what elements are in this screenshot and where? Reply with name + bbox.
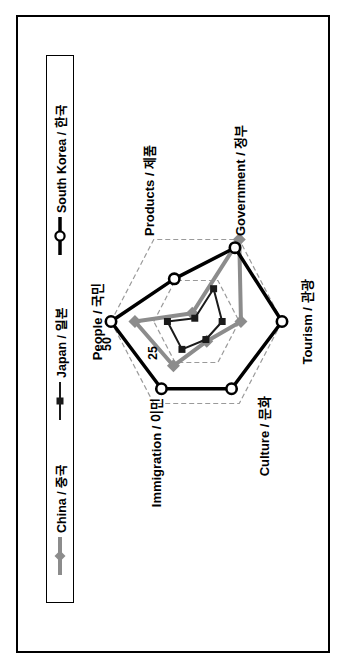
point-south_korea-0 [106,316,116,326]
axis-label-tourism: Tourism / 관광 [297,272,316,372]
point-japan-4 [202,336,209,343]
axis-label-culture: Culture / 문화 [254,396,273,476]
axis-label-products: Products / 제품 [139,145,158,236]
point-japan-3 [219,318,226,325]
point-south_korea-2 [230,242,240,252]
point-south_korea-3 [277,316,287,326]
point-south_korea-5 [156,384,166,394]
screenshot-root: China / 중국 Japan / 일본 South Korea / 한국 P… [0,0,343,669]
point-japan-0 [164,318,171,325]
point-japan-5 [178,346,185,353]
tick-label-50: 50 [100,337,114,351]
point-japan-2 [210,285,217,292]
radar-plot [0,0,343,669]
point-south_korea-4 [226,384,236,394]
axis-label-people: People / 국민 [87,274,106,369]
figure-canvas: China / 중국 Japan / 일본 South Korea / 한국 P… [0,0,343,669]
axis-label-immigration: Immigration / 이민 [146,398,165,507]
tick-label-25: 25 [146,346,160,360]
point-south_korea-1 [169,274,179,284]
point-japan-1 [191,315,198,322]
axis-label-government: Government / 정부 [230,125,249,236]
